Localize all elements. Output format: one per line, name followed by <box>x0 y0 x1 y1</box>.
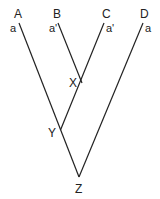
allele-label-D: a <box>145 22 152 34</box>
tree-diagram: A a B a' C a' D a X Y Z <box>0 0 160 199</box>
leaf-label-A: A <box>14 7 22 21</box>
leaf-label-B: B <box>53 7 61 21</box>
allele-label-B: a' <box>49 22 57 34</box>
allele-label-C: a' <box>106 22 114 34</box>
leaf-label-C: C <box>102 7 111 21</box>
branch-B-X <box>58 23 82 83</box>
leaf-label-D: D <box>140 7 149 21</box>
branch-D-Z <box>79 23 143 177</box>
branch-A-Z <box>19 23 79 177</box>
node-label-Z: Z <box>75 182 82 196</box>
node-label-Y: Y <box>48 126 56 140</box>
node-label-X: X <box>69 76 77 90</box>
allele-label-A: a <box>10 22 17 34</box>
branch-C-Y <box>61 23 105 130</box>
